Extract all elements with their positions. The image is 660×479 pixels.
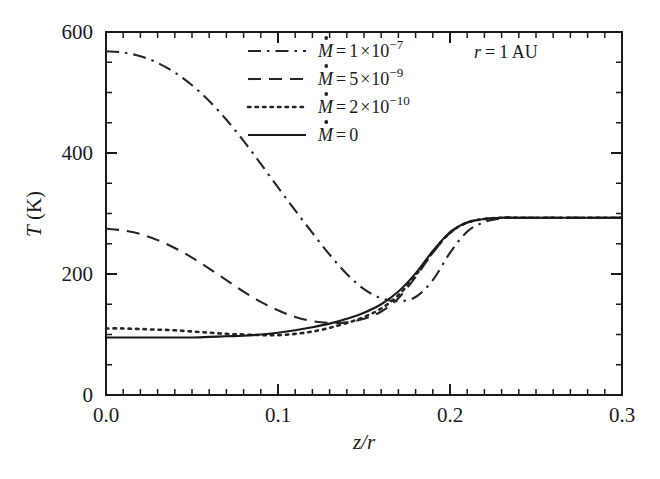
y-tick-label: 0 (83, 383, 94, 407)
annotation-value: 1 AU (499, 42, 538, 62)
x-tick-label: 0.3 (609, 403, 635, 427)
svg-text:T (K): T (K) (22, 191, 46, 237)
legend-symbol-mdot: M (317, 41, 334, 61)
legend-symbol-mdot: M (317, 125, 334, 145)
y-tick-label: 400 (62, 141, 94, 165)
annotation-variable: r (474, 42, 482, 62)
x-tick-label: 0.0 (93, 403, 119, 427)
y-axis-title: T (K) (22, 191, 46, 237)
legend-symbol-mdot: M (317, 97, 334, 117)
legend-overdot (324, 36, 328, 40)
y-tick-label: 600 (62, 20, 94, 44)
legend-overdot (324, 64, 328, 68)
temperature-vs-height-chart: 0.00.10.20.3 0200400600 z/r T (K) r=1 AU… (0, 0, 660, 479)
y-tick-label: 200 (62, 262, 94, 286)
legend-symbol-mdot: M (317, 69, 334, 89)
legend-overdot (324, 92, 328, 96)
annotation-equals: = (485, 42, 495, 62)
legend-overdot (324, 120, 328, 124)
x-axis-title: z/r (352, 430, 376, 454)
x-tick-label: 0.1 (265, 403, 291, 427)
x-tick-label: 0.2 (437, 403, 463, 427)
